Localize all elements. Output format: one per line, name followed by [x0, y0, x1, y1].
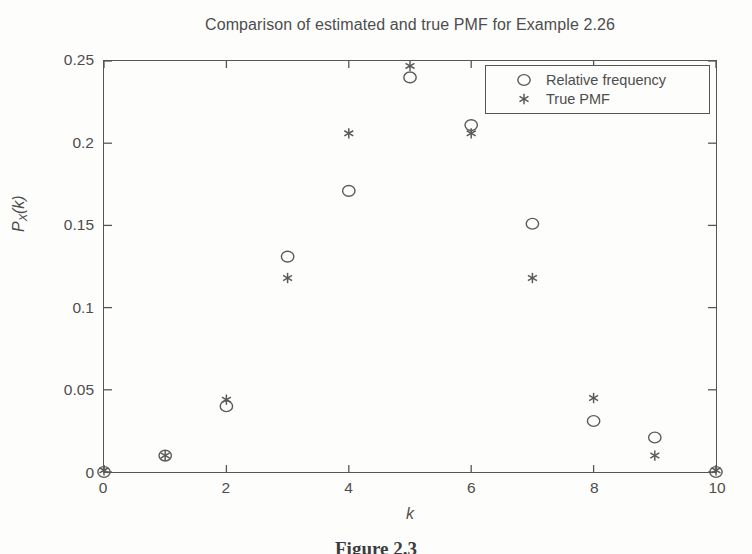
y-tick-label: 0.15 [64, 216, 94, 234]
data-point-asterisk [589, 393, 598, 403]
x-axis-tick-labels: 0246810 [103, 479, 717, 501]
data-point-asterisk [283, 273, 292, 283]
x-tick-label: 8 [590, 479, 599, 497]
y-tick-label: 0.25 [64, 51, 94, 69]
y-axis-label: PX(k) [10, 195, 29, 232]
x-tick-label: 0 [99, 479, 108, 497]
y-axis-label-base: P [10, 221, 27, 232]
y-axis-tick-labels: 00.050.10.150.20.25 [38, 60, 94, 473]
data-series-2 [100, 61, 721, 476]
data-point-circle [281, 251, 293, 262]
legend-item-label: True PMF [546, 91, 610, 107]
y-tick-label: 0 [85, 464, 94, 482]
data-point-circle [649, 432, 661, 443]
plot-canvas [104, 61, 716, 472]
legend-item-label: Relative frequency [546, 72, 666, 88]
x-tick-label: 4 [344, 479, 353, 497]
data-point-asterisk [528, 273, 537, 283]
y-tick-label: 0.1 [72, 299, 94, 317]
plot-area [103, 60, 717, 473]
data-point-circle [587, 416, 599, 427]
page-title: Comparison of estimated and true PMF for… [103, 16, 717, 34]
x-axis-label: k [103, 505, 717, 523]
circle-marker-icon [502, 72, 546, 88]
data-point-asterisk [222, 394, 231, 404]
data-point-asterisk [161, 450, 170, 460]
data-point-circle [343, 186, 355, 197]
y-axis-label-subscript: X [17, 214, 29, 221]
legend-item[interactable]: Relative frequency [486, 70, 709, 89]
figure-caption: Figure 2.3 [0, 538, 752, 554]
data-point-circle [518, 74, 530, 85]
x-tick-label: 2 [221, 479, 230, 497]
y-axis-label-argument: (k) [10, 195, 27, 214]
data-point-asterisk [344, 128, 353, 138]
data-point-asterisk [406, 61, 415, 71]
x-tick-label: 10 [708, 479, 725, 497]
y-tick-label: 0.05 [64, 381, 94, 399]
data-point-circle [404, 72, 416, 83]
y-tick-label: 0.2 [72, 134, 94, 152]
chart-legend: Relative frequencyTrue PMF [485, 65, 710, 114]
data-point-asterisk [650, 450, 659, 460]
x-tick-label: 6 [467, 479, 476, 497]
data-point-circle [526, 218, 538, 229]
asterisk-marker-icon [502, 91, 546, 107]
data-series-1 [98, 72, 722, 477]
data-point-asterisk [519, 93, 528, 103]
legend-item[interactable]: True PMF [486, 89, 709, 108]
figure-page: Comparison of estimated and true PMF for… [0, 0, 752, 554]
